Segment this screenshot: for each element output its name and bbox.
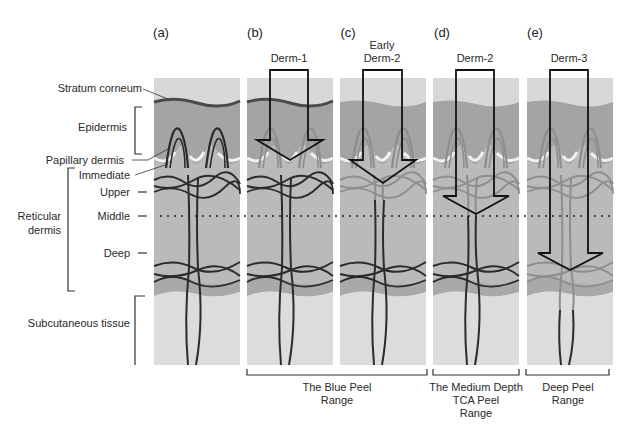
- panel-letter-b: (b): [247, 25, 263, 40]
- label-stratum-corneum: Stratum corneum: [58, 82, 142, 95]
- deep-peel-bracket: [526, 369, 609, 375]
- medium-depth-bracket: [433, 369, 519, 375]
- label-immediate: Immediate: [79, 169, 130, 182]
- peel-label-derm-1: Derm-1: [271, 52, 308, 65]
- peel-label-early-line2: Derm-2: [364, 52, 401, 65]
- reticular-bracket: [68, 168, 75, 291]
- label-upper: Upper: [100, 186, 130, 199]
- skin-cross-section-diagram: [0, 0, 633, 433]
- panel-d: [433, 78, 519, 365]
- range-blue-peel-line2: Range: [321, 394, 353, 407]
- peel-label-derm-3: Derm-3: [551, 52, 588, 65]
- range-medium-line1: The Medium Depth: [429, 381, 523, 394]
- label-subcutaneous: Subcutaneous tissue: [28, 317, 130, 330]
- range-blue-peel-line1: The Blue Peel: [302, 381, 371, 394]
- label-papillary-dermis: Papillary dermis: [46, 154, 124, 167]
- epidermis-bracket: [135, 107, 142, 154]
- panel-e: [527, 78, 613, 365]
- label-middle: Middle: [98, 210, 130, 223]
- range-medium-line2: TCA Peel: [453, 394, 499, 407]
- panel-letter-e: (e): [527, 25, 543, 40]
- panel-b: [247, 78, 333, 365]
- label-reticular-line2: dermis: [28, 224, 61, 237]
- panel-letter-a: (a): [153, 25, 169, 40]
- panel-letter-d: (d): [434, 25, 450, 40]
- panel-c: [340, 78, 426, 365]
- range-medium-line3: Range: [460, 407, 492, 420]
- blue-peel-bracket: [247, 369, 427, 375]
- range-deep-peel-line2: Range: [552, 394, 584, 407]
- peel-label-derm-2: Derm-2: [457, 52, 494, 65]
- peel-label-early-line1: Early: [369, 39, 394, 52]
- subcutaneous-bracket: [135, 296, 145, 365]
- panel-letter-c: (c): [340, 25, 355, 40]
- label-epidermis: Epidermis: [78, 121, 127, 134]
- range-deep-peel-line1: Deep Peel: [542, 381, 593, 394]
- panel-a: [154, 78, 240, 365]
- label-deep: Deep: [104, 247, 130, 260]
- label-reticular-line1: Reticular: [18, 210, 61, 223]
